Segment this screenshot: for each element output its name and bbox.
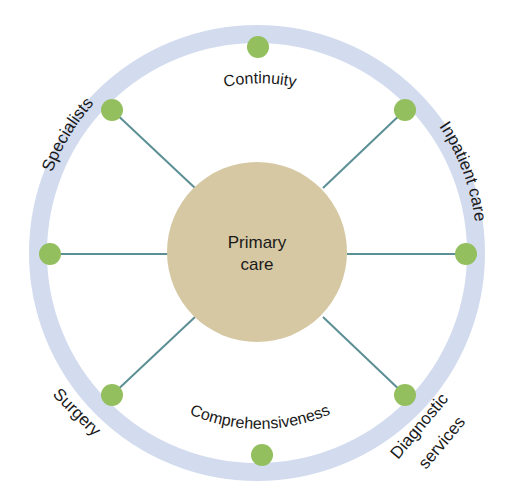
center-label-line1: Primary	[228, 233, 287, 252]
node-top	[247, 36, 269, 58]
node-upper-left	[101, 99, 123, 121]
label-comprehensiveness: Comprehensiveness	[188, 401, 332, 432]
node-lower-left	[101, 384, 123, 406]
primary-care-diagram: Primary care Specialists Inpatient care …	[0, 0, 510, 498]
node-upper-right	[394, 99, 416, 121]
label-continuity: Continuity	[222, 69, 298, 90]
spoke-lower-right	[323, 317, 405, 395]
primary-care-circle	[167, 162, 347, 342]
spoke-upper-left	[112, 110, 195, 188]
node-lower-right	[394, 384, 416, 406]
node-left	[39, 243, 61, 265]
node-right	[455, 243, 477, 265]
node-bottom	[251, 444, 273, 466]
spoke-lower-left	[112, 317, 195, 395]
spoke-upper-right	[323, 110, 405, 188]
center-label-line2: care	[240, 255, 273, 274]
